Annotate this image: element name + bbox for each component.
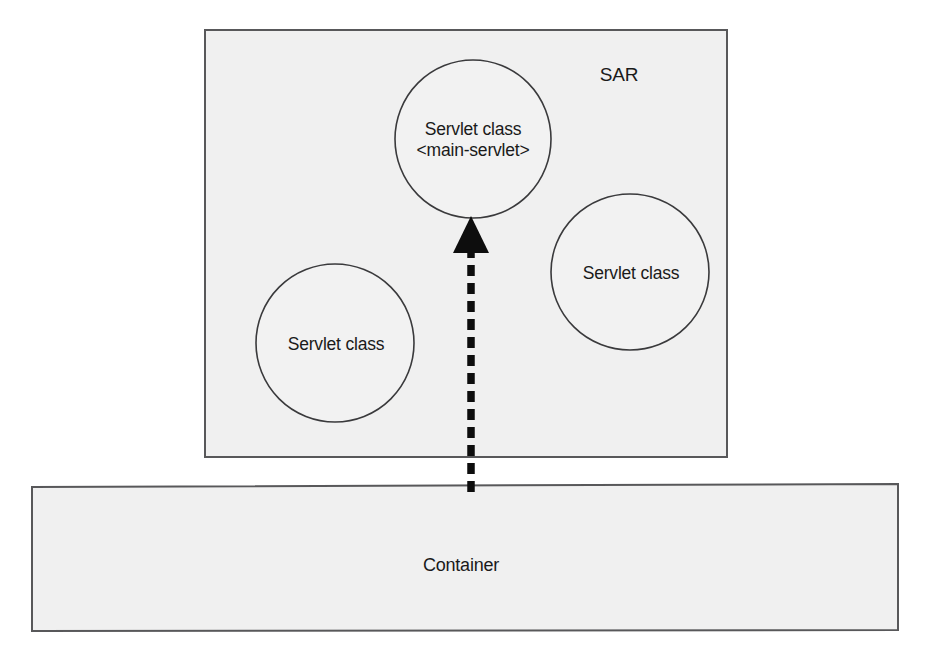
servlet-right-circle[interactable] xyxy=(551,194,709,350)
diagram-canvas: SAR Servlet class <main-servlet> Servlet… xyxy=(0,0,926,656)
diagram-graphics xyxy=(0,0,926,656)
servlet-left-circle[interactable] xyxy=(256,264,414,422)
main-servlet-circle[interactable] xyxy=(395,60,551,218)
container-box[interactable] xyxy=(32,484,898,631)
